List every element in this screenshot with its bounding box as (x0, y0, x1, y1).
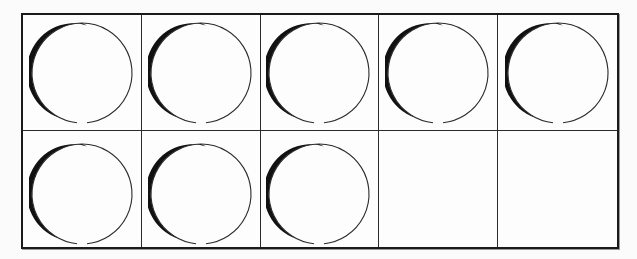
ten-frame (21, 13, 619, 249)
circle-counter-icon (148, 141, 254, 247)
ten-frame-cell-filled (261, 131, 380, 247)
circle-counter-icon (505, 20, 611, 126)
circle-counter-icon (29, 20, 135, 126)
circle-counter-icon (266, 141, 372, 247)
ten-frame-cell-empty (498, 131, 617, 247)
ten-frame-cell-empty (379, 131, 498, 247)
ten-frame-cell-filled (498, 15, 617, 131)
ten-frame-cell-filled (23, 15, 142, 131)
ten-frame-cell-filled (379, 15, 498, 131)
circle-counter-icon (266, 20, 372, 126)
circle-counter-icon (385, 20, 491, 126)
ten-frame-cell-filled (23, 131, 142, 247)
ten-frame-cell-filled (142, 15, 261, 131)
ten-frame-cell-filled (142, 131, 261, 247)
circle-counter-icon (148, 20, 254, 126)
ten-frame-cell-filled (261, 15, 380, 131)
circle-counter-icon (29, 141, 135, 247)
